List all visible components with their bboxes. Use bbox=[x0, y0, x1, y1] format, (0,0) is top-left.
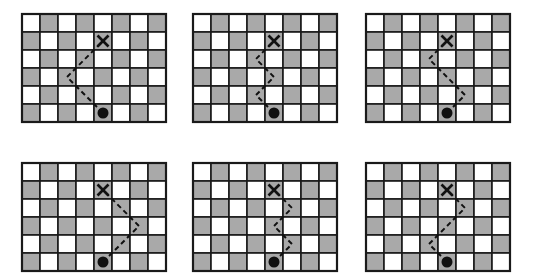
grid-cell bbox=[247, 104, 265, 122]
grid-cell bbox=[402, 50, 420, 68]
grid-cell bbox=[265, 163, 283, 181]
grid-cell bbox=[492, 253, 510, 271]
grid-cell bbox=[474, 14, 492, 32]
grid-cell bbox=[438, 14, 456, 32]
grid-cell bbox=[265, 14, 283, 32]
grid-cell bbox=[366, 199, 384, 217]
grid-cell bbox=[456, 235, 474, 253]
grid-cell bbox=[420, 217, 438, 235]
grid-cell bbox=[94, 163, 112, 181]
grid-cell bbox=[76, 181, 94, 199]
grid-cell bbox=[247, 14, 265, 32]
grid-cell bbox=[474, 217, 492, 235]
grid-cell bbox=[148, 253, 166, 271]
grid-cell bbox=[130, 68, 148, 86]
grid-cell bbox=[265, 86, 283, 104]
grid-cell bbox=[193, 86, 211, 104]
grid-cell bbox=[402, 235, 420, 253]
grid-cell bbox=[211, 217, 229, 235]
start-dot-icon bbox=[98, 257, 109, 268]
grid-cell bbox=[130, 253, 148, 271]
grid-cell bbox=[130, 181, 148, 199]
grid-cell bbox=[438, 163, 456, 181]
grid-cell bbox=[76, 199, 94, 217]
start-dot-icon bbox=[269, 257, 280, 268]
grid-cell bbox=[148, 163, 166, 181]
grid-cell bbox=[402, 199, 420, 217]
checkerboard-grid bbox=[193, 14, 337, 122]
grid-cell bbox=[229, 14, 247, 32]
grid-cell bbox=[22, 163, 40, 181]
grid-cell bbox=[301, 253, 319, 271]
grid-cell bbox=[420, 68, 438, 86]
grid-cell bbox=[474, 181, 492, 199]
grid-cell bbox=[22, 181, 40, 199]
grid-cell bbox=[319, 181, 337, 199]
grid-cell bbox=[247, 235, 265, 253]
grid-cell bbox=[283, 253, 301, 271]
grid-cell bbox=[474, 199, 492, 217]
grid-cell bbox=[193, 217, 211, 235]
grid-cell bbox=[384, 50, 402, 68]
grid-cell bbox=[319, 217, 337, 235]
grid-cell bbox=[420, 32, 438, 50]
grid-cell bbox=[456, 163, 474, 181]
grid-cell bbox=[112, 50, 130, 68]
grid-cell bbox=[112, 104, 130, 122]
grid-cell bbox=[456, 14, 474, 32]
grid-cell bbox=[384, 253, 402, 271]
grid-cell bbox=[229, 50, 247, 68]
grid-cell bbox=[58, 181, 76, 199]
grid-cell bbox=[229, 68, 247, 86]
grid-cell bbox=[384, 14, 402, 32]
grid-cell bbox=[384, 86, 402, 104]
grid-cell bbox=[301, 181, 319, 199]
grid-cell bbox=[492, 217, 510, 235]
grid-cell bbox=[301, 32, 319, 50]
grid-cell bbox=[301, 50, 319, 68]
grid-cell bbox=[402, 32, 420, 50]
grid-cell bbox=[474, 235, 492, 253]
grid-cell bbox=[283, 50, 301, 68]
grid-cell bbox=[229, 217, 247, 235]
grid-cell bbox=[492, 86, 510, 104]
grid-cell bbox=[283, 163, 301, 181]
grid-cell bbox=[283, 14, 301, 32]
grid-cell bbox=[22, 86, 40, 104]
grid-cell bbox=[474, 32, 492, 50]
grid-cell bbox=[366, 68, 384, 86]
grid-cell bbox=[193, 181, 211, 199]
grid-cell bbox=[40, 32, 58, 50]
grid-cell bbox=[229, 199, 247, 217]
grid-cell bbox=[130, 32, 148, 50]
checkerboard-grid bbox=[22, 14, 166, 122]
grid-cell bbox=[438, 235, 456, 253]
grid-cell bbox=[474, 104, 492, 122]
grid-cell bbox=[319, 86, 337, 104]
grid-cell bbox=[420, 104, 438, 122]
grid-cell bbox=[456, 181, 474, 199]
grid-cell bbox=[247, 199, 265, 217]
grid-cell bbox=[130, 104, 148, 122]
grid-cell bbox=[193, 253, 211, 271]
grid-cell bbox=[193, 163, 211, 181]
grid-cell bbox=[76, 217, 94, 235]
grid-cell bbox=[456, 217, 474, 235]
grid-cell bbox=[301, 163, 319, 181]
grid-cell bbox=[366, 217, 384, 235]
grid-cell bbox=[22, 14, 40, 32]
grid-cell bbox=[283, 32, 301, 50]
grid-cell bbox=[420, 253, 438, 271]
grid-cell bbox=[148, 181, 166, 199]
grid-cell bbox=[22, 253, 40, 271]
grid-cell bbox=[384, 68, 402, 86]
start-dot-icon bbox=[442, 108, 453, 119]
grid-cell bbox=[130, 163, 148, 181]
grid-cell bbox=[40, 14, 58, 32]
grid-cell bbox=[148, 32, 166, 50]
grid-cell bbox=[76, 253, 94, 271]
grid-cell bbox=[265, 235, 283, 253]
grid-cell bbox=[319, 50, 337, 68]
grid-cell bbox=[40, 217, 58, 235]
grid-cell bbox=[384, 199, 402, 217]
